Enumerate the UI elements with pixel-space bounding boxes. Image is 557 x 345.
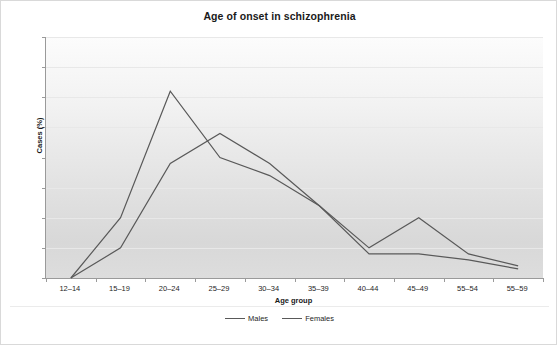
- series-line-females: [71, 133, 518, 278]
- x-tick-mark: [543, 278, 544, 282]
- legend-divider: [10, 306, 549, 307]
- y-axis-title: Cases (%): [35, 118, 44, 154]
- chart-legend: MalesFemales: [1, 314, 557, 323]
- plot-area: 0510152025303540 Cases (%): [45, 37, 543, 279]
- chart-frame: Age of onset in schizophrenia 0510152025…: [0, 0, 557, 345]
- legend-item-females[interactable]: Females: [282, 314, 334, 323]
- legend-item-label: Males: [248, 314, 268, 323]
- chart-title: Age of onset in schizophrenia: [1, 10, 557, 22]
- legend-line-icon: [282, 318, 302, 319]
- x-axis-title: Age group: [45, 296, 542, 305]
- data-series-layer: [46, 37, 543, 279]
- legend-item-males[interactable]: Males: [225, 314, 268, 323]
- legend-line-icon: [225, 318, 245, 319]
- legend-item-label: Females: [305, 314, 334, 323]
- x-tick-label: 55–59: [487, 284, 547, 293]
